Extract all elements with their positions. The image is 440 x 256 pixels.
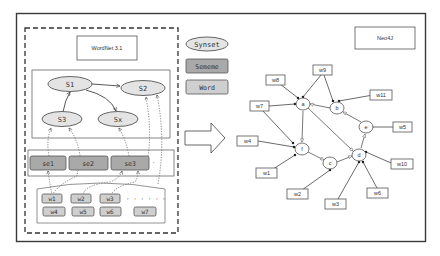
word-ellipsis: · · · · · · (126, 195, 166, 202)
graph-nodes: a b e f c d (295, 98, 373, 169)
gword-w6-label: w6 (373, 190, 381, 196)
neo4j-title: Neo4J (377, 35, 393, 41)
sememe-ellipsis: · (152, 159, 155, 165)
wordnet-panel: WordNet 3.1 S1 S2 S3 Sx se1 se2 se3 · (25, 28, 178, 233)
gword-w5-label: w5 (398, 124, 406, 130)
sememe-se2-label: se2 (82, 160, 94, 168)
synset-s1-label: S1 (66, 81, 74, 89)
word-w5-label: w5 (79, 208, 87, 215)
legend: Synset Sememe Word (186, 37, 228, 94)
legend-sememe-label: Sememe (195, 63, 219, 71)
node-c-label: c (329, 160, 332, 166)
synset-sx-label: Sx (114, 116, 122, 124)
gword-w3-label: w3 (331, 201, 339, 207)
gword-w9-label: w9 (318, 67, 326, 73)
word-w3-label: w3 (106, 195, 114, 202)
word-w4-label: w4 (50, 208, 58, 215)
sememe-se1-label: se1 (42, 160, 54, 168)
node-e-label: e (364, 124, 367, 130)
graph-word-boxes: w8 w9 w11 w7 w5 w4 w10 w1 w2 w6 w3 (237, 65, 413, 209)
diagram-canvas: WordNet 3.1 S1 S2 S3 Sx se1 se2 se3 · (0, 0, 440, 256)
gword-w8-label: w8 (271, 77, 279, 83)
gword-w2-label: w2 (293, 191, 301, 197)
transform-arrow-icon (185, 123, 225, 153)
synset-s2-label: S2 (139, 85, 147, 93)
sememe-se3-label: se3 (124, 160, 136, 168)
node-b-label: b (335, 105, 338, 111)
synset-s3-label: S3 (58, 116, 66, 124)
gword-w4-label: w4 (243, 138, 251, 144)
neo4j-panel: Neo4J (237, 27, 415, 209)
word-w7-label: w7 (141, 208, 149, 215)
wordnet-title: WordNet 3.1 (92, 45, 123, 51)
gword-w10-label: w10 (396, 161, 407, 167)
legend-synset-label: Synset (194, 41, 219, 49)
word-w2-label: w2 (77, 195, 85, 202)
legend-word-label: Word (199, 84, 215, 92)
word-w1-label: w1 (48, 195, 56, 202)
word-w6-label: w6 (106, 208, 114, 215)
node-d-label: d (357, 152, 360, 158)
gword-w7-label: w7 (255, 103, 263, 109)
gword-w11-label: w11 (375, 92, 386, 98)
gword-w1-label: w1 (262, 170, 270, 176)
